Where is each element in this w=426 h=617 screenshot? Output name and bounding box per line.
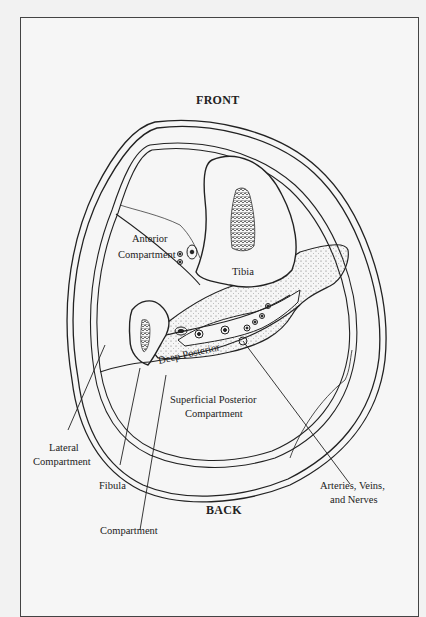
label-and-nerves: and Nerves bbox=[330, 493, 378, 507]
label-superficial-posterior: Superficial Posterior bbox=[170, 393, 257, 407]
label-deep-compartment: Compartment bbox=[100, 524, 158, 538]
label-lateral-compartment: Compartment bbox=[33, 455, 91, 469]
label-arteries-veins: Arteries, Veins, bbox=[320, 479, 385, 493]
label-fibula: Fibula bbox=[99, 479, 126, 493]
anterior-vessels bbox=[178, 245, 198, 265]
label-back: BACK bbox=[206, 503, 242, 517]
label-superficial-compartment: Compartment bbox=[185, 407, 243, 421]
label-tibia: Tibia bbox=[232, 265, 254, 279]
label-anterior: Anterior bbox=[132, 232, 168, 246]
label-front: FRONT bbox=[196, 93, 240, 107]
label-lateral: Lateral bbox=[49, 441, 79, 455]
label-anterior-compartment: Compartment bbox=[118, 248, 176, 262]
